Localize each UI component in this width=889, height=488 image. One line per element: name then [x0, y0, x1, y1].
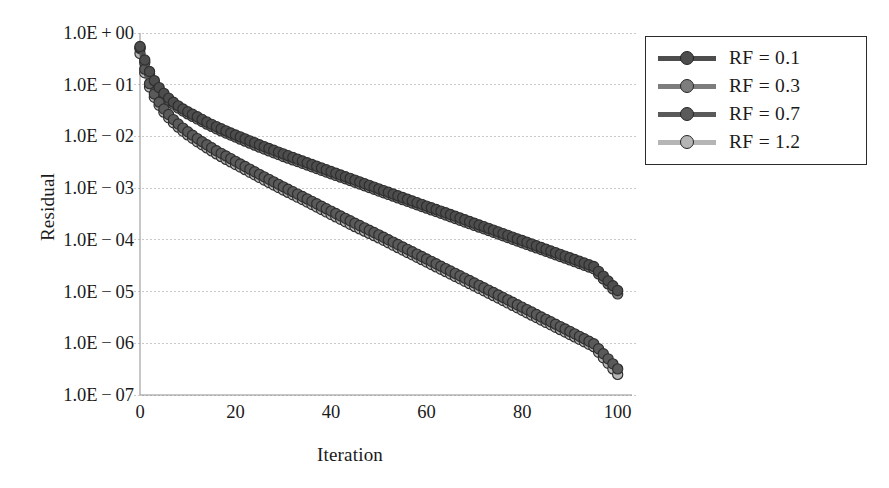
legend-item[interactable]: RF = 0.3: [656, 72, 856, 100]
legend-dot-swatch: [680, 51, 694, 65]
x-axis-tick-label: 0: [110, 402, 170, 423]
data-series: [135, 48, 623, 379]
legend-marker-icon: [656, 132, 718, 152]
data-point-marker: [135, 41, 145, 51]
residual-convergence-chart: Residual 1.0E + 001.0E − 011.0E − 021.0E…: [0, 0, 889, 488]
data-point-marker: [613, 285, 623, 295]
legend-item-label: RF = 1.2: [718, 131, 800, 153]
data-series: [135, 43, 623, 374]
legend-item-label: RF = 0.7: [718, 103, 800, 125]
legend-dot-swatch: [680, 135, 694, 149]
legend-marker-icon: [656, 104, 718, 124]
y-axis-tick-label: 1.0E − 06: [8, 334, 134, 352]
series-line: [140, 49, 618, 294]
x-axis-title: Iteration: [0, 444, 700, 466]
legend-dot-swatch: [680, 79, 694, 93]
y-axis-tick-label: 1.0E − 02: [8, 127, 134, 145]
chart-legend: RF = 0.1RF = 0.3RF = 0.7RF = 1.2: [645, 36, 867, 165]
y-axis-tick-label: 1.0E − 05: [8, 283, 134, 301]
legend-dot-swatch: [680, 107, 694, 121]
plot-area: [140, 33, 632, 395]
data-series: [135, 43, 623, 299]
legend-item-label: RF = 0.3: [718, 75, 800, 97]
plot-canvas: [140, 33, 632, 395]
legend-marker-icon: [656, 48, 718, 68]
x-axis-tick-label: 60: [397, 402, 457, 423]
x-axis-tick-label: 40: [301, 402, 361, 423]
y-axis-tick-label: 1.0E − 03: [8, 179, 134, 197]
legend-item[interactable]: RF = 0.1: [656, 44, 856, 72]
data-point-marker: [613, 364, 623, 374]
y-axis-tick-label: 1.0E + 00: [8, 24, 134, 42]
legend-item-label: RF = 0.1: [718, 47, 800, 69]
y-axis-tick-label: 1.0E − 01: [8, 76, 134, 94]
x-axis-tick-label: 100: [588, 402, 648, 423]
data-point-marker: [140, 55, 150, 65]
x-axis-tick-label: 20: [206, 402, 266, 423]
x-axis-tick-label: 80: [492, 402, 552, 423]
legend-marker-icon: [656, 76, 718, 96]
legend-item[interactable]: RF = 0.7: [656, 100, 856, 128]
y-axis-tick-label: 1.0E − 04: [8, 231, 134, 249]
legend-item[interactable]: RF = 1.2: [656, 128, 856, 156]
